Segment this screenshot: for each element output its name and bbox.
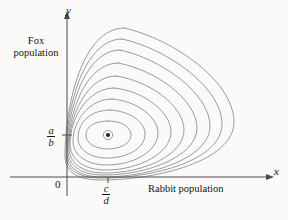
fraction-denominator: d <box>102 194 110 206</box>
fraction-numerator: a <box>47 125 55 136</box>
y-axis-title: Fox population <box>8 35 64 59</box>
orbit-curves <box>65 28 234 180</box>
y-axis-variable-label: y <box>66 4 71 17</box>
y-axis-title-line1: Fox <box>28 35 44 46</box>
equilibrium-point-marker <box>103 130 112 139</box>
x-axis-variable-label: x <box>274 165 279 178</box>
origin-label: 0 <box>55 178 61 191</box>
fraction-a-over-b: a b <box>47 125 55 148</box>
orbit-curve-8 <box>66 39 222 178</box>
x-axis-tick-label-cd: c d <box>102 183 110 206</box>
fraction-numerator: c <box>102 183 110 194</box>
phase-portrait-figure: y x 0 Fox population Rabbit population a… <box>0 0 288 220</box>
plot-canvas <box>0 0 288 220</box>
x-axis-arrowhead <box>266 174 274 180</box>
x-axis-title: Rabbit population <box>148 183 224 195</box>
fraction-c-over-d: c d <box>102 183 110 206</box>
fraction-denominator: b <box>47 136 55 148</box>
orbit-curve-9 <box>65 28 234 180</box>
orbit-curve-2 <box>78 110 145 158</box>
y-axis-title-line2: population <box>14 47 59 58</box>
y-axis-tick-label-ab: a b <box>47 125 55 148</box>
